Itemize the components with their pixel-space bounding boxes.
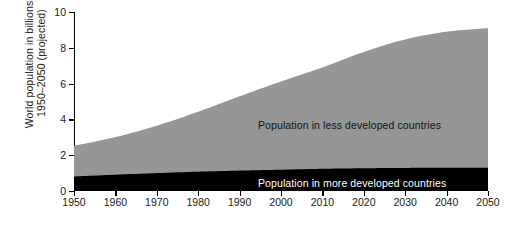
plot-area [74,12,488,191]
x-tick-label-2020: 2020 [342,196,386,208]
population-area-chart: World population in billions, 1950–2050 … [0,0,520,228]
y-tick-label-10: 10 [48,6,66,18]
y-tick-label-6: 6 [48,78,66,90]
y-tick-label-4: 4 [48,113,66,125]
x-tick-label-1990: 1990 [218,196,262,208]
y-axis-title-line-2: 1950–2050 (projected) [35,9,47,117]
y-tick-label-8: 8 [48,42,66,54]
y-axis-title-line-1: World population in billions, [23,0,35,128]
y-tick-label-2: 2 [48,149,66,161]
x-tick-label-1970: 1970 [135,196,179,208]
x-tick-label-2030: 2030 [383,196,427,208]
series-label-less-developed-countries: Population in less developed countries [258,119,441,131]
x-tick-label-2000: 2000 [259,196,303,208]
y-axis-title: World population in billions, 1950–2050 … [18,0,52,158]
x-tick-label-1950: 1950 [52,196,96,208]
series-label-more-developed-countries: Population in more developed countries [258,177,446,189]
x-tick-label-1980: 1980 [176,196,220,208]
area-less-developed-countries [74,28,488,191]
x-tick-label-2040: 2040 [425,196,469,208]
x-tick-label-2050: 2050 [466,196,510,208]
x-tick-label-1960: 1960 [93,196,137,208]
x-tick-label-2010: 2010 [300,196,344,208]
